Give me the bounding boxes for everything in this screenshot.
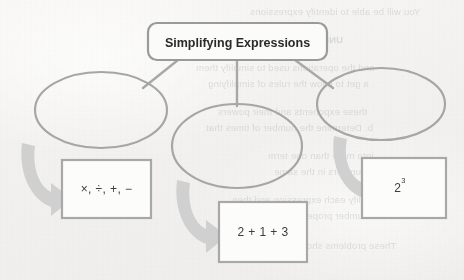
concept-map-diagram: Simplifying Expressions ×, ÷, +, − 2 + 1… — [0, 0, 464, 280]
example-box-right-exponent: 3 — [401, 176, 406, 185]
example-box-center[interactable]: 2 + 1 + 3 — [219, 202, 307, 262]
title-box-label: Simplifying Expressions — [165, 36, 310, 50]
example-box-right[interactable]: 23 — [362, 158, 446, 218]
scanned-page: You will be able to identify expressions… — [0, 0, 464, 280]
example-box-left[interactable]: ×, ÷, +, − — [62, 160, 151, 218]
title-box[interactable]: Simplifying Expressions — [148, 23, 327, 60]
ellipse-center[interactable] — [172, 104, 302, 188]
ellipse-left[interactable] — [35, 72, 167, 148]
example-box-center-text: 2 + 1 + 3 — [238, 225, 289, 239]
connector-group — [143, 60, 333, 106]
example-box-left-text: ×, ÷, +, − — [81, 182, 133, 196]
example-box-right-shape — [362, 158, 446, 218]
ellipse-right[interactable] — [317, 68, 445, 140]
example-box-right-base: 2 — [394, 181, 401, 195]
